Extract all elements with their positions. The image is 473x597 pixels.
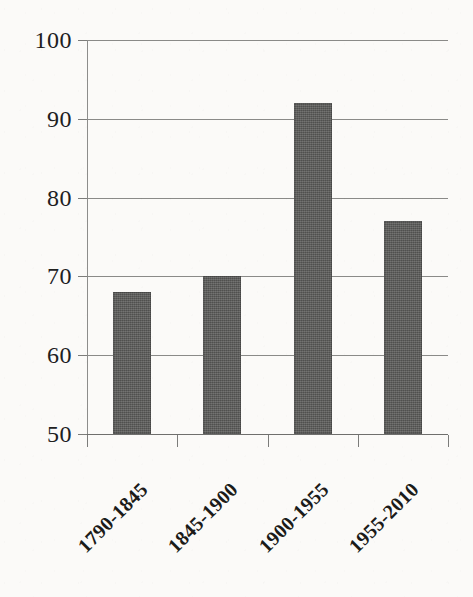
x-axis-tick xyxy=(448,435,449,447)
x-axis-tick-label: 1955-2010 xyxy=(345,479,422,556)
y-axis-tick xyxy=(78,434,87,435)
y-axis-tick-label: 90 xyxy=(14,107,72,131)
x-axis-tick-label: 1845-1900 xyxy=(164,479,241,556)
y-axis-tick xyxy=(78,355,87,356)
gridline xyxy=(87,119,448,120)
y-axis-tick xyxy=(78,276,87,277)
x-axis-tick-label: 1900-1955 xyxy=(255,479,332,556)
y-axis-tick xyxy=(78,119,87,120)
y-axis-tick xyxy=(78,40,87,41)
plot-area xyxy=(87,40,448,434)
y-axis-tick-label: 60 xyxy=(14,343,72,367)
bar xyxy=(113,292,151,434)
y-axis-tick-labels: 100 90 80 70 60 50 xyxy=(10,0,72,597)
gridline xyxy=(87,40,448,41)
bar xyxy=(294,103,332,434)
y-axis-tick-label: 80 xyxy=(14,186,72,210)
bar xyxy=(203,276,241,434)
bar xyxy=(384,221,422,434)
x-axis-tick xyxy=(87,435,88,447)
gridline xyxy=(87,198,448,199)
y-axis-tick xyxy=(78,198,87,199)
x-axis-tick xyxy=(177,435,178,447)
bar-chart-figure: 100 90 80 70 60 50 1790-18451845-1900190… xyxy=(0,0,473,597)
x-axis-tick xyxy=(358,435,359,447)
y-axis-tick-label: 70 xyxy=(14,264,72,288)
x-axis-tick xyxy=(268,435,269,447)
y-axis-tick-label: 50 xyxy=(14,422,72,446)
x-axis-tick-label: 1790-1845 xyxy=(74,479,151,556)
y-axis-tick-label: 100 xyxy=(14,28,72,52)
